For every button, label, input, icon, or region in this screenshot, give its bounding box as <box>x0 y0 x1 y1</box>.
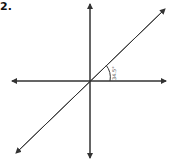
angle-label: 34.5° <box>111 66 117 80</box>
angle-arc <box>106 65 110 81</box>
diagram-canvas: 34.5° <box>0 0 177 162</box>
